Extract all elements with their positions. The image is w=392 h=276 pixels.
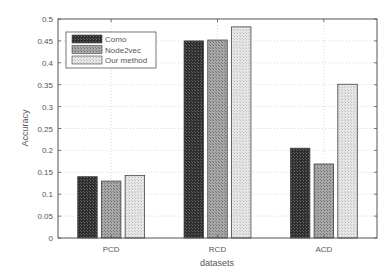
y-tick-label: 0.25 bbox=[37, 125, 53, 134]
x-tick-label: PCD bbox=[103, 245, 120, 254]
legend-swatch-icon bbox=[72, 46, 102, 54]
y-axis-label: Accuracy bbox=[20, 109, 30, 147]
bar-chart: 00.050.10.150.20.250.30.350.40.450.5 PCD… bbox=[0, 0, 392, 276]
bar-our-method-acd bbox=[338, 84, 358, 238]
bar-node2vec-acd bbox=[314, 164, 334, 238]
bar-como-rcd bbox=[184, 41, 204, 238]
y-tick-label: 0 bbox=[49, 234, 54, 243]
legend: ComoNode2vecOur method bbox=[66, 32, 156, 68]
bar-our-method-pcd bbox=[125, 175, 145, 238]
y-tick-label: 0.4 bbox=[42, 59, 54, 68]
y-tick-label: 0.1 bbox=[42, 190, 54, 199]
legend-label: Node2vec bbox=[105, 46, 141, 55]
legend-swatch-icon bbox=[72, 35, 102, 43]
y-tick-label: 0.15 bbox=[37, 168, 53, 177]
y-tick-label: 0.2 bbox=[42, 146, 54, 155]
x-axis-label: datasets bbox=[200, 258, 235, 268]
y-tick-label: 0.05 bbox=[37, 212, 53, 221]
legend-label: Our method bbox=[105, 56, 147, 65]
bar-como-pcd bbox=[78, 177, 98, 238]
y-tick-label: 0.5 bbox=[42, 15, 54, 24]
x-tick-label: ACD bbox=[315, 245, 332, 254]
y-tick-label: 0.3 bbox=[42, 103, 54, 112]
bar-node2vec-rcd bbox=[208, 40, 228, 238]
y-tick-label: 0.35 bbox=[37, 81, 53, 90]
bar-como-acd bbox=[290, 148, 310, 238]
y-tick-label: 0.45 bbox=[37, 37, 53, 46]
bar-node2vec-pcd bbox=[101, 181, 121, 238]
x-tick-label: RCD bbox=[209, 245, 227, 254]
bar-our-method-rcd bbox=[231, 27, 251, 238]
legend-label: Como bbox=[105, 35, 127, 44]
legend-swatch-icon bbox=[72, 56, 102, 64]
